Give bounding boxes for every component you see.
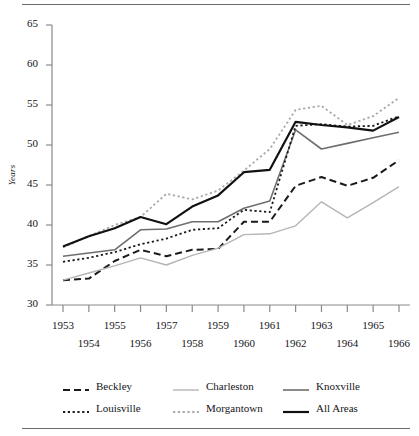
x-tick-label-1953: 1953 <box>43 319 83 331</box>
legend-swatch-icon <box>282 403 310 413</box>
series-line-knoxville <box>63 130 399 256</box>
x-tick-label-1955: 1955 <box>95 319 135 331</box>
x-tick-label-1954: 1954 <box>69 337 109 349</box>
legend-row-top: BeckleyCharlestonKnoxville <box>60 376 380 396</box>
legend-swatch-icon <box>62 381 90 391</box>
series-line-louisville <box>63 116 399 262</box>
x-tick-label-1959: 1959 <box>198 319 238 331</box>
series-line-all-areas <box>63 117 399 247</box>
y-tick-label-65: 65 <box>16 17 38 29</box>
axis-group <box>46 25 410 312</box>
x-tick-label-1956: 1956 <box>121 337 161 349</box>
legend-item-louisville[interactable]: Louisville <box>62 398 141 418</box>
legend-item-morgantown[interactable]: Morgantown <box>172 398 263 418</box>
y-tick-label-35: 35 <box>16 257 38 269</box>
x-tick-label-1963: 1963 <box>301 319 341 331</box>
legend-swatch-icon <box>62 403 90 413</box>
figure-container: Years 6560555045403530 19531954195519561… <box>0 0 419 436</box>
legend-label: Knoxville <box>316 380 360 392</box>
legend-item-all-areas[interactable]: All Areas <box>282 398 358 418</box>
y-tick-label-60: 60 <box>16 57 38 69</box>
line-chart <box>0 0 419 436</box>
legend-label: Beckley <box>96 380 132 392</box>
x-tick-label-1958: 1958 <box>172 337 212 349</box>
legend-row-bottom: LouisvilleMorgantownAll Areas <box>60 398 380 418</box>
x-tick-label-1965: 1965 <box>353 319 393 331</box>
series-group <box>63 98 399 280</box>
series-line-beckley <box>63 160 399 280</box>
legend-label: Charleston <box>206 380 254 392</box>
y-tick-label-40: 40 <box>16 217 38 229</box>
x-tick-label-1961: 1961 <box>250 319 290 331</box>
legend-swatch-icon <box>172 381 200 391</box>
series-line-charleston <box>63 187 399 281</box>
legend-item-beckley[interactable]: Beckley <box>62 376 132 396</box>
chart-legend: BeckleyCharlestonKnoxville LouisvilleMor… <box>60 376 380 420</box>
legend-label: Louisville <box>96 402 141 414</box>
legend-item-knoxville[interactable]: Knoxville <box>282 376 360 396</box>
legend-swatch-icon <box>282 381 310 391</box>
x-tick-label-1962: 1962 <box>276 337 316 349</box>
y-tick-label-50: 50 <box>16 137 38 149</box>
legend-label: All Areas <box>316 402 358 414</box>
legend-swatch-icon <box>172 403 200 413</box>
x-tick-label-1964: 1964 <box>327 337 367 349</box>
y-tick-label-55: 55 <box>16 97 38 109</box>
legend-label: Morgantown <box>206 402 263 414</box>
legend-item-charleston[interactable]: Charleston <box>172 376 254 396</box>
y-tick-label-45: 45 <box>16 177 38 189</box>
x-tick-label-1960: 1960 <box>224 337 264 349</box>
series-line-morgantown <box>63 98 399 248</box>
x-tick-label-1957: 1957 <box>146 319 186 331</box>
y-tick-label-30: 30 <box>16 297 38 309</box>
x-tick-label-1966: 1966 <box>379 337 419 349</box>
